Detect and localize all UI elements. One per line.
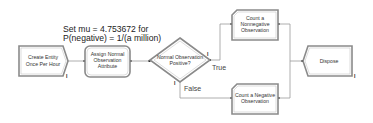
create-module[interactable]: Create Entity Once Per Hour I [19,46,68,79]
record-negative-line1: Count a Negative [235,92,275,98]
record-nonnegative-module[interactable]: Count a Nonnegative Observation [232,10,278,40]
record-negative-line2: Observation [241,98,269,104]
assign-label-line3: Attribute [98,63,117,69]
dispose-marker: I [354,73,356,79]
exit-point-marker: I [66,73,68,79]
assign-label-line1: Assign Normal [91,51,125,57]
record-negative-module[interactable]: Count a Negative Observation [232,84,278,114]
record-nonnegative-line1: Count a [246,15,264,21]
false-exit-marker: I [174,80,176,86]
assign-label-line2: Observation [94,57,122,63]
connector-nonneg-dispose[interactable] [278,24,303,61]
true-branch-label: True [212,64,226,71]
decide-label-line2: Positive? [169,60,190,66]
flowchart-canvas: Create Entity Once Per Hour I Assign Nor… [0,0,373,123]
annotation-line2: P(negative) = 1/(a million) [63,33,161,43]
record-nonnegative-line3: Observation [241,27,269,33]
create-label-line2: Once Per Hour [26,61,61,67]
annotation: Set mu = 4.753672 for P(negative) = 1/(a… [63,24,161,43]
dispose-module[interactable]: Dispose I [303,46,356,79]
connector-neg-dispose[interactable] [278,61,290,98]
create-label-line1: Create Entity [28,54,58,60]
assign-module[interactable]: Assign Normal Observation Attribute [85,46,130,77]
decide-module[interactable]: Normal Observation Positive? I I True Fa… [150,38,226,92]
record-nonnegative-line2: Nonnegative [240,21,269,27]
false-branch-label: False [184,85,201,92]
dispose-label: Dispose [320,58,339,64]
true-exit-marker: I [207,51,209,57]
connector-decide-true[interactable] [210,24,232,60]
